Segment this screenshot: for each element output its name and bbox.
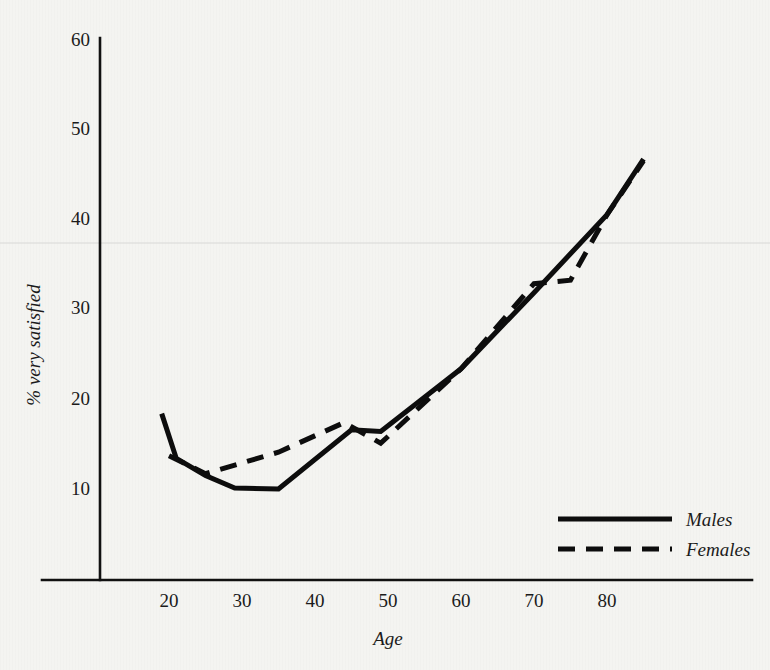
series-line-females — [169, 161, 644, 474]
y-tick-label-20: 20 — [71, 388, 90, 409]
y-tick-label-50: 50 — [71, 118, 90, 139]
x-tick-label-20: 20 — [160, 590, 179, 611]
chart-legend: Males Females — [558, 509, 750, 560]
y-tick-label-30: 30 — [71, 297, 90, 318]
x-tick-label-80: 80 — [598, 590, 617, 611]
chart-page: 60 50 40 30 20 10 20 30 40 50 60 70 80 %… — [0, 0, 770, 670]
x-tick-label-40: 40 — [306, 590, 325, 611]
x-tick-label-70: 70 — [525, 590, 544, 611]
y-axis-title: % very satisfied — [23, 284, 44, 406]
x-tick-label-50: 50 — [379, 590, 398, 611]
legend-label-females: Females — [685, 539, 750, 560]
x-axis-title: Age — [371, 628, 403, 649]
series-line-males — [162, 159, 644, 489]
y-tick-label-60: 60 — [71, 29, 90, 50]
x-tick-label-60: 60 — [452, 590, 471, 611]
y-tick-label-10: 10 — [71, 478, 90, 499]
x-tick-label-30: 30 — [233, 590, 252, 611]
legend-label-males: Males — [685, 509, 732, 530]
y-tick-label-40: 40 — [71, 208, 90, 229]
line-chart: 60 50 40 30 20 10 20 30 40 50 60 70 80 %… — [0, 0, 770, 670]
